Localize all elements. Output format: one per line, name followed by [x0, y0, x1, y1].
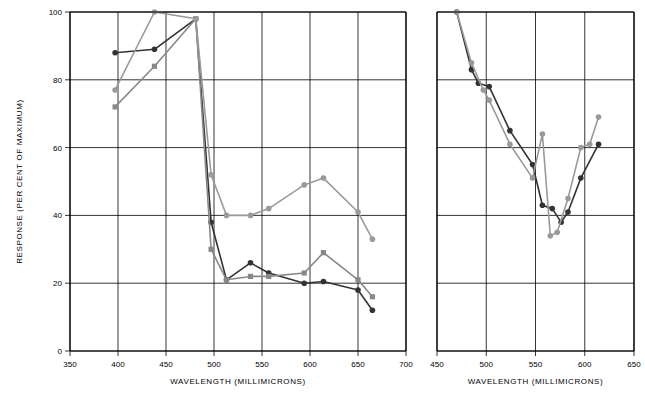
x-tick-label: 500: [207, 360, 221, 369]
data-point-light-gray-curve: [554, 230, 560, 236]
data-point-light-gray-curve: [266, 206, 272, 212]
series-line-light-gray-curve: [457, 12, 599, 236]
data-point-light-gray-curve: [486, 97, 492, 103]
data-point-light-gray-curve: [224, 213, 230, 219]
data-point-dark-curve: [596, 141, 602, 147]
data-point-light-gray-curve: [193, 16, 199, 22]
data-point-dark-curve: [507, 128, 513, 134]
x-tick-label: 700: [399, 360, 413, 369]
data-point-mid-gray-curve: [321, 250, 326, 255]
x-tick-label: 450: [159, 360, 173, 369]
x-tick-label: 500: [480, 360, 494, 369]
x-tick-label: 350: [63, 360, 77, 369]
data-point-light-gray-curve: [480, 87, 486, 93]
x-tick-label: 450: [430, 360, 444, 369]
data-point-light-gray-curve: [208, 172, 214, 178]
data-point-dark-curve: [301, 280, 307, 286]
y-tick-label: 100: [49, 8, 63, 17]
data-point-mid-gray-curve: [209, 247, 214, 252]
data-point-light-gray-curve: [565, 196, 571, 202]
y-axis-title: RESPONSE (PER CENT OF MAXIMUM): [15, 99, 24, 264]
data-point-light-gray-curve: [540, 131, 546, 137]
panel-left-panel: 350400450500550600650700020406080100WAVE…: [49, 8, 414, 386]
y-tick-label: 0: [58, 347, 63, 356]
figure-container: 350400450500550600650700020406080100WAVE…: [0, 0, 645, 417]
x-tick-label: 550: [529, 360, 543, 369]
x-tick-label: 550: [255, 360, 269, 369]
data-point-light-gray-curve: [370, 236, 376, 242]
x-axis-title: WAVELENGTH (MILLIMICRONS): [170, 377, 305, 386]
data-point-mid-gray-curve: [302, 270, 307, 275]
data-point-dark-curve: [486, 84, 492, 90]
data-point-dark-curve: [370, 308, 376, 314]
x-axis-title: WAVELENGTH (MILLIMICRONS): [468, 377, 603, 386]
x-tick-label: 650: [627, 360, 641, 369]
chart-svg: 350400450500550600650700020406080100WAVE…: [0, 0, 645, 417]
data-point-light-gray-curve: [355, 209, 361, 215]
data-point-mid-gray-curve: [152, 64, 157, 69]
data-point-light-gray-curve: [248, 213, 254, 219]
data-point-mid-gray-curve: [266, 274, 271, 279]
data-point-dark-curve: [112, 50, 118, 56]
data-point-mid-gray-curve: [355, 277, 360, 282]
y-tick-label: 60: [53, 144, 62, 153]
data-point-dark-curve: [565, 209, 571, 215]
data-point-dark-curve: [321, 279, 327, 285]
data-point-dark-curve: [248, 260, 254, 266]
panel-right-panel: 450500550600650WAVELENGTH (MILLIMICRONS): [430, 9, 641, 386]
data-point-light-gray-curve: [507, 141, 513, 147]
y-tick-label: 40: [53, 211, 62, 220]
y-tick-label: 80: [53, 76, 62, 85]
data-point-mid-gray-curve: [248, 274, 253, 279]
data-point-light-gray-curve: [530, 175, 536, 181]
data-point-light-gray-curve: [301, 182, 307, 188]
data-point-light-gray-curve: [578, 145, 584, 151]
data-point-light-gray-curve: [547, 233, 553, 239]
y-tick-label: 20: [53, 279, 62, 288]
data-point-dark-curve: [355, 287, 361, 293]
data-point-mid-gray-curve: [370, 294, 375, 299]
data-point-dark-curve: [549, 206, 555, 212]
data-point-mid-gray-curve: [224, 277, 229, 282]
x-tick-label: 400: [111, 360, 125, 369]
data-point-light-gray-curve: [112, 87, 118, 93]
data-point-light-gray-curve: [587, 141, 593, 147]
data-point-light-gray-curve: [596, 114, 602, 120]
data-point-dark-curve: [540, 202, 546, 208]
x-tick-label: 650: [351, 360, 365, 369]
data-point-dark-curve: [152, 46, 158, 52]
series-line-dark-curve: [457, 12, 599, 222]
series-line-dark-curve: [115, 19, 372, 311]
data-point-light-gray-curve: [469, 60, 475, 66]
series-line-mid-gray-curve: [115, 19, 372, 297]
data-point-mid-gray-curve: [113, 104, 118, 109]
series-line-light-gray-curve: [115, 12, 372, 239]
x-tick-label: 600: [303, 360, 317, 369]
data-point-light-gray-curve: [321, 175, 327, 181]
x-tick-label: 600: [578, 360, 592, 369]
data-point-dark-curve: [578, 175, 584, 181]
